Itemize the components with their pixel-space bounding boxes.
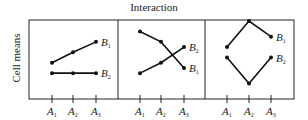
x-tick-label: A3 (90, 105, 101, 118)
x-tick-label: A2 (243, 105, 254, 118)
series-label-b2: B2 (101, 67, 111, 80)
data-point (247, 82, 251, 86)
series-label-b2: B2 (189, 41, 199, 54)
x-tick-label: A3 (265, 105, 276, 118)
x-tick-label: A2 (67, 105, 78, 118)
x-tick-label: A2 (155, 105, 166, 118)
data-point (94, 40, 98, 44)
data-point (269, 35, 273, 39)
data-point (50, 61, 54, 65)
x-tick-label: A3 (178, 105, 189, 118)
data-point (182, 66, 186, 70)
series-label-b1: B1 (276, 31, 286, 44)
x-tick-label: A1 (134, 105, 145, 118)
data-point (138, 29, 142, 33)
data-point (71, 71, 75, 75)
series-line-b1 (227, 21, 271, 47)
data-point (182, 45, 186, 49)
interaction-plots: A1A2A3B1B2A1A2A3B1B2A1A2A3B1B2 (0, 0, 308, 120)
series-label-b1: B1 (189, 62, 199, 75)
data-point (225, 45, 229, 49)
data-point (71, 50, 75, 54)
data-point (50, 71, 54, 75)
plot-frame (29, 20, 294, 99)
series-line-b2 (227, 58, 271, 84)
data-point (159, 40, 163, 44)
series-label-b2: B2 (276, 52, 286, 65)
data-point (247, 19, 251, 23)
series-label-b1: B1 (101, 36, 111, 49)
data-point (138, 71, 142, 75)
x-tick-label: A1 (221, 105, 232, 118)
data-point (269, 56, 273, 60)
data-point (225, 56, 229, 60)
data-point (159, 61, 163, 65)
x-tick-label: A1 (46, 105, 57, 118)
data-point (94, 71, 98, 75)
